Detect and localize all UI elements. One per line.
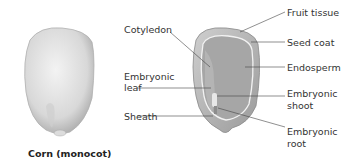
label-embryonic-root-2: root	[287, 138, 306, 149]
caption-corn-monocot: Corn (monocot)	[28, 148, 111, 159]
label-endosperm: Endosperm	[287, 62, 341, 73]
label-embryonic-leaf-2: leaf	[124, 82, 142, 93]
label-embryonic-root-1: Embryonic	[287, 126, 338, 137]
label-seed-coat: Seed coat	[287, 37, 334, 48]
label-embryonic-shoot-1: Embryonic	[287, 88, 338, 99]
label-cotyledon: Cotyledon	[124, 24, 172, 35]
label-sheath: Sheath	[124, 111, 157, 122]
whole-corn-kernel	[25, 28, 94, 136]
label-embryonic-shoot-2: shoot	[287, 100, 313, 111]
label-embryonic-leaf-1: Embryonic	[124, 71, 175, 82]
label-fruit-tissue: Fruit tissue	[287, 7, 339, 18]
